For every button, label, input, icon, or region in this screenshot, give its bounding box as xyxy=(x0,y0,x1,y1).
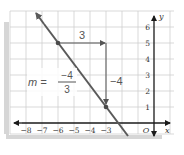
x-tick: −3 xyxy=(100,126,111,135)
y-tick: 5 xyxy=(145,39,150,48)
rise-label: −4 xyxy=(110,75,123,87)
x-tick: −7 xyxy=(36,126,47,135)
y-tick: 4 xyxy=(145,55,150,64)
point-neg6-5 xyxy=(56,41,61,46)
y-axis-label: y xyxy=(158,12,164,21)
x-axis-label: x xyxy=(165,126,170,135)
run-label: 3 xyxy=(79,29,85,41)
point-neg3-1 xyxy=(104,105,109,110)
slope-denominator: 3 xyxy=(64,84,70,95)
coordinate-graph: 3 −4 m = −4 3 −8 −7 −6 −5 −4 −3 1 2 3 4 … xyxy=(0,0,184,155)
slope-lhs: m = xyxy=(28,76,47,88)
slope-label: m = −4 3 xyxy=(27,68,77,96)
y-tick: 3 xyxy=(145,71,150,80)
x-tick: −8 xyxy=(20,126,31,135)
y-tick: 2 xyxy=(145,87,150,96)
y-tick: 6 xyxy=(145,23,150,32)
x-tick: −6 xyxy=(52,126,63,135)
x-tick: −4 xyxy=(84,126,95,135)
slope-numerator: −4 xyxy=(61,70,73,81)
x-tick: −5 xyxy=(68,126,79,135)
y-tick: 1 xyxy=(145,103,150,112)
origin-label: O xyxy=(143,126,150,135)
